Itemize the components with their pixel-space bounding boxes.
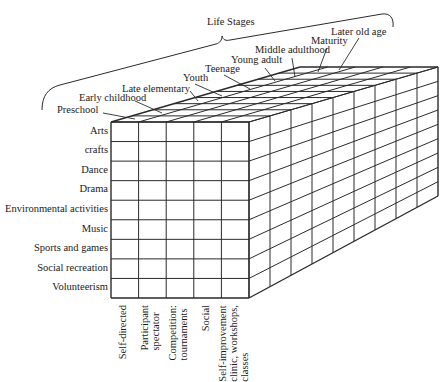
life-stage-label: Early childhood (79, 93, 146, 104)
format-label: Self-directed (117, 305, 128, 359)
activity-area-label: Drama (79, 184, 108, 195)
life-stage-label: Preschool (57, 105, 98, 116)
activity-area-label: Dance (81, 165, 108, 176)
life-stages-title: Life Stages (207, 17, 255, 28)
format-label: Social (200, 305, 211, 331)
activity-area-label: Music (82, 224, 108, 235)
activity-area-label: Environmental activities (5, 204, 108, 215)
life-stage-label: Young adult (231, 55, 282, 66)
life-stage-label: Maturity (311, 36, 348, 47)
format-label: Competition:tournaments (167, 305, 189, 360)
leader-line (190, 91, 198, 101)
format-label: Participantspectator (139, 305, 161, 351)
life-stage-label: Later old age (331, 27, 386, 38)
life-stage-label: Youth (183, 73, 208, 84)
activity-area-label: Social recreation (37, 263, 108, 274)
life-stage-label: Teenage (205, 64, 240, 75)
format-label: Self-improvementclinic, workshops,classe… (217, 305, 250, 382)
life-stage-label: Middle adulthood (255, 45, 330, 56)
activity-area-label: Volunteerism (52, 282, 108, 293)
life-stage-label: Late elementary (122, 84, 190, 95)
leader-line (292, 58, 295, 77)
activity-area-label: crafts (85, 145, 108, 156)
activity-area-label: Sports and games (34, 243, 108, 254)
activity-area-label: Arts (90, 126, 108, 137)
